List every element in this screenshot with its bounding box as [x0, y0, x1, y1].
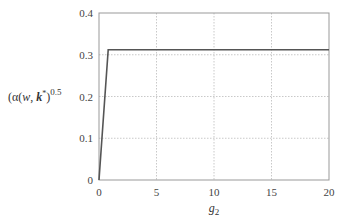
x-tick-label: 0 — [96, 186, 102, 198]
x-tick-label: 20 — [324, 186, 336, 198]
x-tick-label: 5 — [154, 186, 160, 198]
x-axis-label: g2 — [209, 201, 220, 217]
y-tick-label: 0.3 — [79, 49, 93, 61]
x-tick-label: 10 — [209, 186, 221, 198]
y-tick-label: 0.2 — [79, 91, 93, 103]
grid-lines — [99, 13, 329, 180]
line-chart: 05101520 00.10.20.30.4 g2 (α(w, k*)0.5 — [0, 0, 345, 224]
x-axis-ticks: 05101520 — [96, 186, 335, 198]
y-tick-label: 0.1 — [79, 132, 93, 144]
x-tick-label: 15 — [266, 186, 278, 198]
y-axis-ticks: 00.10.20.30.4 — [79, 7, 93, 186]
y-tick-label: 0 — [88, 174, 94, 186]
y-axis-label: (α(w, k*)0.5 — [8, 87, 62, 104]
y-tick-label: 0.4 — [79, 7, 93, 19]
